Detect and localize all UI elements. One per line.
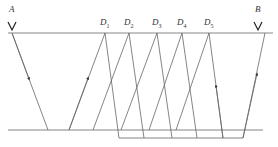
ray-down-d1 <box>105 33 119 138</box>
label-b: B <box>255 4 261 14</box>
label-d1-sub: 1 <box>107 23 110 29</box>
ray-down-d2 <box>129 33 144 138</box>
arrow-icon <box>243 74 257 138</box>
ray-up-d2 <box>93 33 129 130</box>
ray-up-d4 <box>149 33 182 130</box>
label-d1: D1 <box>100 17 110 29</box>
label-d2-sub: 2 <box>131 23 134 29</box>
arrow-icon <box>69 78 88 130</box>
label-d4-sub: 4 <box>184 23 187 29</box>
label-a: A <box>9 4 15 14</box>
v-marker-b <box>254 22 262 30</box>
ray-down-d4 <box>182 33 197 138</box>
label-d2: D2 <box>124 17 134 29</box>
ray-up-d3 <box>121 33 157 130</box>
label-d3-sub: 3 <box>159 23 162 29</box>
v-marker-a <box>8 22 16 30</box>
ray-up-d5 <box>176 33 209 130</box>
label-d4: D4 <box>177 17 187 29</box>
ray-path-diagram <box>0 0 278 147</box>
label-d3: D3 <box>152 17 162 29</box>
arrow-icon <box>12 33 29 79</box>
label-d5: D5 <box>204 17 214 29</box>
label-d5-sub: 5 <box>211 23 214 29</box>
